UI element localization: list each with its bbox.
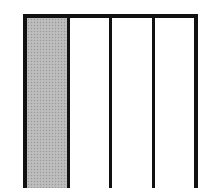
fraction-part-2: [67, 18, 110, 188]
fraction-square: [23, 14, 198, 188]
fraction-part-3: [109, 18, 152, 188]
fraction-part-1-shaded: [27, 18, 67, 188]
fraction-part-4: [152, 18, 195, 188]
